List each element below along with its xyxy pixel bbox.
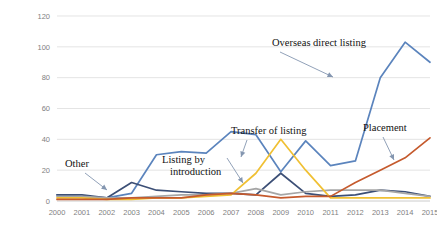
annotation-arrowhead-other	[101, 185, 107, 190]
y-axis-tick-labels: 020406080100120	[37, 12, 50, 206]
x-tick-label: 2001	[74, 208, 91, 217]
x-tick-label: 2014	[397, 208, 414, 217]
x-tick-label: 2002	[98, 208, 115, 217]
annotation-label-listing-by-introduction: Listing by	[162, 154, 206, 165]
series-line-overseas-direct-listing	[57, 42, 430, 198]
y-tick-label: 20	[42, 166, 50, 175]
data-series-layer	[57, 42, 430, 199]
x-tick-label: 2010	[297, 208, 314, 217]
annotation-layer: Overseas direct listingTransfer of listi…	[65, 37, 407, 190]
x-tick-label: 2015	[422, 208, 437, 217]
y-tick-label: 0	[46, 197, 50, 206]
y-tick-label: 120	[37, 12, 50, 21]
x-axis-tick-labels: 2000200120022003200420052006200720082009…	[49, 208, 437, 217]
x-tick-label: 2012	[347, 208, 364, 217]
annotation-label-overseas-direct-listing: Overseas direct listing	[272, 37, 367, 48]
annotation-label2-listing-by-introduction: introduction	[170, 166, 222, 177]
x-tick-label: 2007	[223, 208, 240, 217]
x-tick-label: 2009	[272, 208, 289, 217]
y-tick-label: 40	[42, 135, 50, 144]
x-tick-label: 2005	[173, 208, 190, 217]
x-tick-label: 2006	[198, 208, 215, 217]
x-tick-label: 2003	[123, 208, 140, 217]
line-chart: 020406080100120 200020012002200320042005…	[0, 0, 437, 231]
y-tick-label: 60	[42, 104, 50, 113]
annotation-label-placement: Placement	[363, 122, 407, 133]
x-tick-label: 2008	[248, 208, 265, 217]
y-tick-label: 80	[42, 73, 50, 82]
annotation-label-transfer-of-listing: Transfer of listing	[231, 125, 307, 136]
annotation-arrow-overseas-direct-listing	[280, 52, 333, 77]
chart-canvas: 020406080100120 200020012002200320042005…	[0, 0, 437, 231]
annotation-arrowhead-transfer-of-listing	[240, 151, 245, 157]
x-tick-label: 2013	[372, 208, 389, 217]
x-tick-label: 2004	[148, 208, 165, 217]
x-tick-label: 2011	[322, 208, 338, 217]
annotation-arrowhead-listing-by-introduction	[238, 177, 243, 183]
annotation-label-other: Other	[65, 158, 89, 169]
x-tick-label: 2000	[49, 208, 66, 217]
y-tick-label: 100	[37, 43, 50, 52]
